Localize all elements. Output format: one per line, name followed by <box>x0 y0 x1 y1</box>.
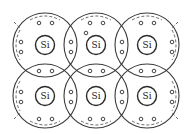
dashed-bond-arc <box>16 30 20 60</box>
electron <box>170 100 174 104</box>
electron <box>37 21 41 25</box>
electron <box>101 21 105 25</box>
atom-label: Si <box>91 40 100 50</box>
electron <box>19 40 23 44</box>
atom-label: Si <box>40 91 49 101</box>
electron <box>139 69 143 73</box>
electron <box>19 100 23 104</box>
electron <box>139 21 143 25</box>
electron <box>19 90 23 94</box>
dashed-bond-arc <box>172 81 176 111</box>
electron <box>88 21 92 25</box>
dashed-tick <box>14 22 20 28</box>
electron <box>69 100 73 104</box>
dashed-bond-arc <box>172 30 176 60</box>
electron <box>120 100 124 104</box>
electron <box>37 117 41 121</box>
dashed-bond-arc <box>30 121 60 125</box>
silicon-atom: Si <box>87 87 106 106</box>
electron <box>88 69 92 73</box>
electron <box>69 40 73 44</box>
dashed-bond-arc <box>132 121 162 125</box>
electron <box>120 50 124 54</box>
electron <box>170 90 174 94</box>
silicon-atom: Si <box>36 87 55 106</box>
silicon-atom: Si <box>138 36 157 55</box>
dashed-tick <box>14 113 20 119</box>
electron <box>170 50 174 54</box>
electron <box>50 69 54 73</box>
silicon-lattice-diagram: Si Si Si Si Si Si <box>0 0 193 134</box>
atom-label: Si <box>142 91 151 101</box>
atom-label: Si <box>142 40 151 50</box>
dashed-bond-arc <box>132 16 162 20</box>
dashed-bond-arc <box>81 16 111 20</box>
dashed-tick <box>172 113 178 119</box>
electron <box>170 40 174 44</box>
electron <box>139 117 143 121</box>
electron <box>152 117 156 121</box>
dashed-tick <box>172 22 178 28</box>
electron <box>50 21 54 25</box>
electron <box>88 117 92 121</box>
electron <box>120 90 124 94</box>
atom-label: Si <box>40 40 49 50</box>
dangling-bond-arcs <box>14 16 178 125</box>
electron <box>101 117 105 121</box>
dashed-bond-arc <box>81 121 111 125</box>
silicon-atom: Si <box>87 36 106 55</box>
electron <box>69 90 73 94</box>
dashed-bond-arc <box>16 81 20 111</box>
silicon-atom: Si <box>138 87 157 106</box>
electron <box>50 117 54 121</box>
dashed-bond-arc <box>30 16 60 20</box>
electron <box>120 40 124 44</box>
electron <box>152 69 156 73</box>
electron <box>84 31 88 35</box>
silicon-atom: Si <box>36 36 55 55</box>
electron <box>37 69 41 73</box>
valence-shells <box>13 13 179 128</box>
electron <box>152 21 156 25</box>
atom-label: Si <box>91 91 100 101</box>
electron <box>19 50 23 54</box>
electron <box>69 50 73 54</box>
electron <box>101 69 105 73</box>
